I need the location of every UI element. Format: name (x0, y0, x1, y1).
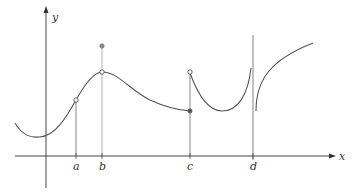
open-point-c (188, 70, 192, 74)
open-point-a (74, 98, 78, 102)
y-axis-arrow-icon (44, 6, 49, 13)
x-axis-arrow-icon (329, 154, 336, 159)
open-point-b (100, 70, 104, 74)
tick-b: b (99, 160, 106, 173)
curve-piece-3 (256, 43, 313, 111)
curve-piece-1 (15, 72, 190, 137)
curve-piece-2 (190, 68, 251, 111)
tick-d: d (250, 160, 257, 173)
filled-point-c (188, 109, 192, 113)
tick-a: a (73, 160, 80, 173)
tick-c: c (187, 160, 193, 173)
y-axis-label: y (51, 11, 59, 24)
x-axis-label: x (339, 150, 346, 163)
function-graph: x y a b c d (0, 0, 354, 192)
filled-point-b (100, 44, 104, 48)
